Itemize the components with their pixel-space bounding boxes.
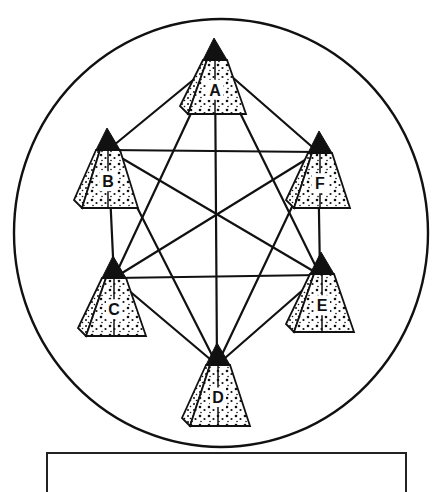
edge-b-f <box>108 150 318 152</box>
pyramid-apex-cap <box>96 128 120 150</box>
node-e: E <box>286 252 354 332</box>
caption-box <box>46 452 407 492</box>
node-label: D <box>212 389 224 406</box>
node-label: F <box>315 175 325 192</box>
node-a: A <box>180 38 246 114</box>
pyramid-nodes: ABFCED <box>74 38 354 426</box>
node-label: C <box>108 301 120 318</box>
node-label: E <box>317 297 328 314</box>
edge-c-e <box>114 275 320 278</box>
node-label: B <box>102 173 114 190</box>
node-b: B <box>74 128 138 208</box>
pyramid-apex-cap <box>203 38 227 60</box>
node-label: A <box>209 82 221 99</box>
pyramid-apex-cap <box>308 131 332 153</box>
node-f: F <box>286 131 350 208</box>
node-d: D <box>182 343 250 426</box>
